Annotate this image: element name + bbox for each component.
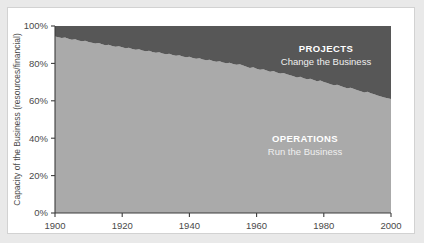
y-axis-title: Capacity of the Business (resources/fina… [12,33,22,206]
chart-card: 0%20%40%60%80%100% 190019201940196019802… [7,7,415,234]
y-tick-label: 0% [34,207,48,218]
operations-sublabel: Run the Business [268,146,343,157]
projects-label: PROJECTS [299,43,353,54]
y-tick-label: 40% [29,133,49,144]
x-tick-label: 2000 [380,220,401,231]
plot-area [55,26,391,213]
operations-label: OPERATIONS [272,133,338,144]
stacked-area-chart: 0%20%40%60%80%100% 190019201940196019802… [8,8,414,233]
x-tick-label: 1900 [44,220,65,231]
projects-sublabel: Change the Business [281,56,372,67]
y-tick-label: 100% [24,20,49,31]
x-axis: 190019201940196019802000 [44,213,401,231]
x-tick-label: 1980 [313,220,334,231]
y-axis: 0%20%40%60%80%100% [24,20,55,218]
y-tick-label: 60% [29,95,49,106]
x-tick-label: 1920 [112,220,133,231]
y-tick-label: 80% [29,58,49,69]
y-tick-label: 20% [29,170,49,181]
x-tick-label: 1960 [246,220,267,231]
x-tick-label: 1940 [179,220,200,231]
